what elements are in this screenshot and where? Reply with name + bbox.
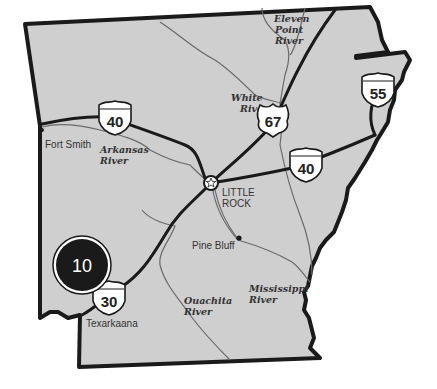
river-label-white-1: White [231, 92, 263, 103]
river-label-ouachita-1: Ouachita [184, 295, 232, 306]
city-label-little-rock-2: ROCK [222, 198, 251, 209]
shield-number: 30 [101, 293, 118, 310]
interstate-55-shield-icon: 55 [362, 73, 394, 107]
badge-number: 10 [72, 256, 92, 276]
river-label-arkansas-1: Arkansas [99, 144, 150, 155]
city-label-fort-smith: Fort Smith [45, 139, 91, 150]
shield-number: 55 [370, 85, 387, 102]
capital-star-icon [204, 176, 218, 190]
shield-number: 40 [107, 113, 124, 130]
interstate-40-east-shield-icon: 40 [290, 148, 322, 182]
interstate-40-west-shield-icon: 40 [99, 101, 131, 135]
river-label-eleven-point-1: Eleven [273, 13, 309, 24]
number-badge: 10 [53, 236, 111, 294]
shield-number: 67 [265, 113, 282, 130]
river-label-ouachita-2: River [183, 306, 213, 317]
city-label-pine-bluff: Pine Bluff [192, 240, 235, 251]
river-label-eleven-point-2: Point [274, 24, 304, 35]
river-label-eleven-point-3: River [274, 35, 304, 46]
city-label-little-rock-1: LITTLE [222, 187, 255, 198]
river-label-mississippi-1: Mississippi [248, 283, 309, 294]
shield-number: 40 [298, 160, 315, 177]
fort-smith-dot-icon [40, 128, 44, 132]
city-label-texarkana: Texarkaana [86, 318, 138, 329]
river-label-arkansas-2: River [99, 155, 129, 166]
river-label-mississippi-2: River [248, 294, 278, 305]
pine-bluff-dot-icon [236, 235, 241, 240]
arkansas-map: Fort Smith LITTLE ROCK Pine Bluff Texark… [0, 0, 437, 389]
